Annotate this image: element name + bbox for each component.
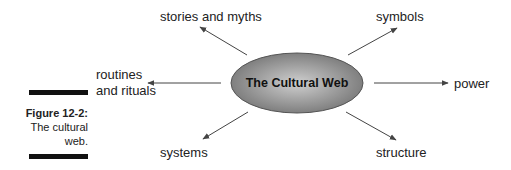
node-routines-line1: routines xyxy=(96,67,143,82)
node-symbols: symbols xyxy=(376,9,424,24)
node-structure: structure xyxy=(376,145,427,160)
arrow-stories xyxy=(200,27,247,55)
node-power: power xyxy=(454,76,490,91)
arrow-structure xyxy=(346,112,396,140)
node-systems: systems xyxy=(160,145,208,160)
arrow-systems xyxy=(203,112,248,139)
arrow-symbols xyxy=(348,28,397,55)
node-routines-line2: and rituals xyxy=(96,83,156,98)
cultural-web-diagram: The Cultural Web stories and myths symbo… xyxy=(0,0,511,170)
center-label: The Cultural Web xyxy=(246,76,349,90)
node-stories-and-myths: stories and myths xyxy=(160,9,262,24)
